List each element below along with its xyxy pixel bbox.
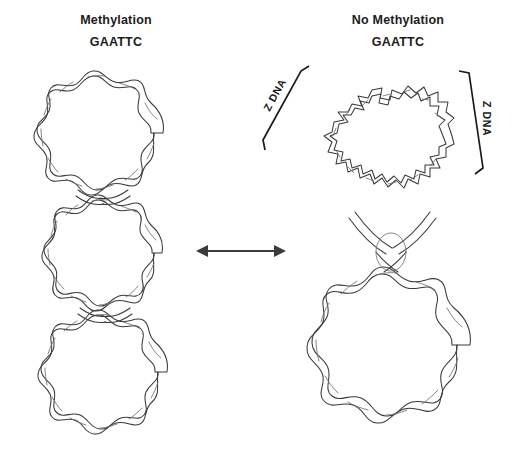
left-plasmid — [34, 71, 168, 434]
right-panel-sequence: GAATTC — [282, 35, 514, 49]
left-loop-middle — [42, 195, 163, 311]
right-junction — [349, 212, 436, 272]
right-loop-bottom-bdna — [307, 267, 470, 423]
left-panel-sequence: GAATTC — [0, 35, 232, 49]
left-panel-title: Methylation — [0, 13, 232, 27]
left-junction-lower — [78, 308, 132, 323]
right-loop-top-zdna — [324, 86, 454, 188]
dna-structures-svg — [0, 0, 521, 453]
right-plasmid — [307, 86, 470, 423]
left-loop-bottom — [38, 310, 168, 434]
z-dna-label-right: Z DNA — [481, 101, 493, 136]
left-loop-top — [34, 71, 164, 195]
z-dna-bracket-right — [459, 71, 483, 174]
right-panel-title: No Methylation — [282, 13, 514, 27]
figure-canvas: Methylation GAATTC No Methylation GAATTC… — [0, 0, 521, 453]
equilibrium-arrow — [196, 245, 286, 257]
